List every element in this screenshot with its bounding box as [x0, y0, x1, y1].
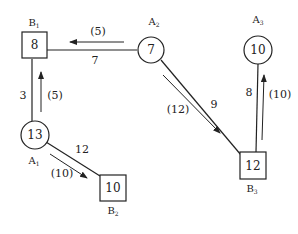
node-b2: 10 B2: [100, 175, 126, 217]
edge-flow-label: (10): [51, 167, 74, 180]
edge-cost-label: 7: [92, 54, 99, 67]
node-b1: 8 B1: [22, 17, 47, 58]
node-value: 12: [245, 159, 260, 173]
node-value: 10: [105, 181, 120, 195]
node-label: B2: [107, 205, 118, 217]
edge-cost-label: 12: [75, 143, 89, 156]
edge-a2-b1: (5) 7: [47, 25, 137, 67]
node-label: B3: [246, 183, 257, 195]
edge-cost-label: 3: [20, 89, 27, 102]
node-label: A3: [251, 14, 263, 26]
node-value: 8: [31, 38, 39, 52]
edge-flow-label: (5): [47, 89, 63, 102]
node-value: 7: [147, 43, 155, 57]
node-label: A1: [27, 155, 39, 167]
edge-b3-a3: 8 (10): [246, 64, 292, 152]
node-value: 10: [250, 43, 265, 57]
edge-flow-label: (10): [269, 88, 292, 101]
edge-a1-b2: 12 (10): [46, 142, 100, 180]
flow-arrow-icon: [262, 75, 264, 140]
node-b3: 12 B3: [240, 152, 266, 195]
edge-flow-label: (5): [90, 25, 106, 38]
node-label: B1: [28, 17, 39, 29]
node-a3: 10 A3: [244, 14, 272, 64]
node-a2: 7 A2: [138, 16, 164, 63]
edge-a2-b3: 9 (12): [161, 60, 241, 155]
edge-a1-b1: 3 (5): [20, 59, 63, 121]
edge-cost-label: 8: [246, 86, 253, 99]
network-diagram: (5) 7 3 (5) 12 (10) 9 (12) 8 (10) 8 B1 7…: [0, 0, 298, 234]
edge-cost-label: 9: [211, 98, 218, 111]
node-label: A2: [147, 16, 159, 28]
node-a1: 13 A1: [21, 121, 49, 167]
node-value: 13: [27, 128, 42, 142]
edge-flow-label: (12): [167, 103, 190, 116]
